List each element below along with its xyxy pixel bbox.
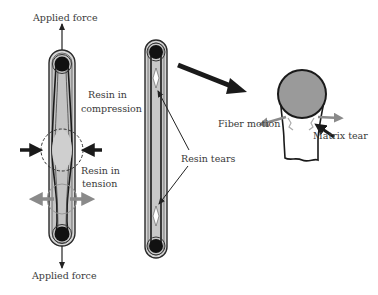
detail-arrow (178, 65, 247, 94)
fiber-cross-section (278, 70, 326, 118)
label-applied-force-bottom: Applied force (31, 270, 97, 281)
label-resin-compression-1: Resin in (88, 89, 127, 100)
label-matrix-tear: Matrix tear (313, 130, 368, 141)
fiber-detail (262, 70, 340, 161)
label-resin-tears: Resin tears (181, 153, 235, 164)
fiber-motion-arrow-right (318, 117, 340, 118)
label-applied-force-top: Applied force (32, 12, 98, 23)
label-resin-tension-2: tension (82, 178, 117, 189)
label-resin-compression-2: compression (81, 103, 142, 114)
top-pin (55, 57, 70, 72)
left-strap (20, 24, 102, 268)
fiber-loop-failure-diagram: Applied force Applied force Resin in com… (0, 0, 378, 295)
center-strap (145, 40, 189, 258)
label-fiber-motion: Fiber motion (218, 118, 280, 129)
bottom-pin (55, 227, 70, 242)
label-resin-tension-1: Resin in (81, 165, 120, 176)
